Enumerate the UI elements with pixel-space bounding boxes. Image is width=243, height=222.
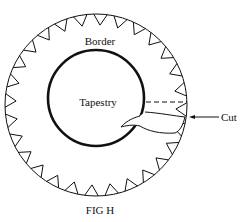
border-tooth: [24, 40, 37, 52]
border-tooth: [94, 14, 108, 25]
border-tooth: [5, 94, 16, 108]
border-tooth: [31, 165, 43, 178]
border-tooth: [166, 142, 179, 154]
tapestry-diagram: Border Tapestry Cut FIG H: [0, 0, 243, 222]
border-tooth: [47, 175, 59, 188]
border-tooth: [133, 22, 145, 35]
border-tooth: [85, 185, 99, 196]
tapestry-label: Tapestry: [79, 96, 117, 108]
border-tooth: [176, 103, 187, 117]
cut-arrow-head: [189, 115, 195, 119]
figure-caption: FIG H: [86, 204, 114, 216]
border-tooth: [149, 33, 161, 46]
cut-label: Cut: [221, 111, 237, 123]
border-label: Border: [85, 35, 116, 47]
border-tooth: [156, 158, 169, 170]
border-tooth: [13, 56, 26, 68]
